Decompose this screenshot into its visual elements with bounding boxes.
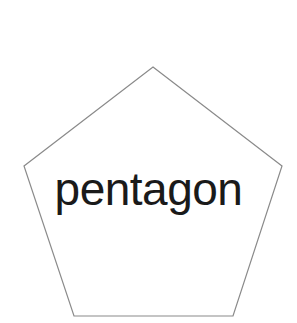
pentagon-label: pentagon <box>0 166 297 212</box>
shape-canvas: pentagon <box>0 0 297 323</box>
pentagon-shape-svg <box>0 0 297 323</box>
